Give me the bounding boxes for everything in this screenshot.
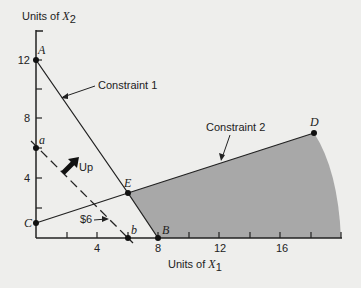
- ytick-8: 8: [24, 112, 30, 124]
- ytick-4: 4: [24, 172, 30, 184]
- point-D: [311, 130, 317, 136]
- y-axis-title: Units of X2: [22, 9, 76, 25]
- point-E: [125, 190, 131, 196]
- xtick-16: 16: [276, 242, 288, 254]
- label-b: b: [131, 223, 137, 237]
- label-A: A: [37, 43, 46, 57]
- arrowhead-icon: [219, 153, 225, 161]
- cost-label: $6: [80, 213, 92, 225]
- ytick-12: 12: [18, 54, 30, 66]
- lp-chart: 12 8 4 4 8 12 16 Units of X2 Units of X1…: [0, 0, 361, 288]
- x-axis-title: Units of X1: [168, 257, 222, 273]
- constraint-2-label: Constraint 2: [206, 121, 265, 133]
- xtick-8: 8: [155, 242, 161, 254]
- up-label: Up: [79, 161, 93, 173]
- xtick-12: 12: [214, 242, 226, 254]
- up-arrow-icon: [63, 157, 79, 173]
- label-a: a: [39, 133, 45, 147]
- arrowhead-icon: [102, 216, 109, 222]
- label-D: D: [309, 115, 319, 129]
- arrowhead-icon: [61, 93, 68, 99]
- label-E: E: [123, 176, 132, 190]
- label-B: B: [162, 223, 170, 237]
- point-A: [33, 57, 39, 63]
- point-C: [33, 220, 39, 226]
- constraint-1-label: Constraint 1: [98, 79, 157, 91]
- feasible-region: [128, 133, 341, 238]
- iso-cost-line: [31, 141, 133, 243]
- label-C: C: [24, 216, 33, 230]
- xtick-4: 4: [94, 242, 100, 254]
- point-B: [155, 235, 161, 241]
